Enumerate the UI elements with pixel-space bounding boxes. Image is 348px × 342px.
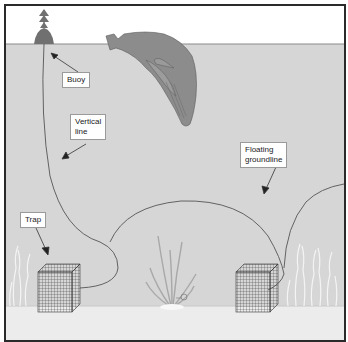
label-vertical-line: Vertical line — [70, 114, 106, 140]
trap-left — [38, 264, 80, 312]
sky — [6, 6, 344, 44]
sand-mound — [160, 304, 184, 310]
label-trap: Trap — [20, 212, 46, 228]
diagram-frame: Buoy Vertical line Floating groundline T… — [4, 4, 346, 342]
label-buoy: Buoy — [62, 72, 90, 88]
trap-right — [236, 264, 278, 312]
scene-illustration — [6, 6, 344, 340]
label-floating-groundline: Floating groundline — [240, 142, 287, 168]
